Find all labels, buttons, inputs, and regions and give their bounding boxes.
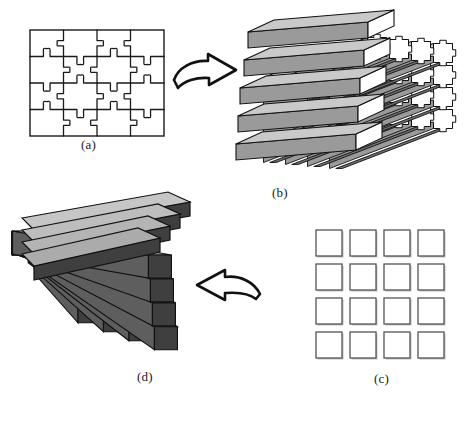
arrow-a-to-b	[172, 52, 240, 98]
panel-b-caption: (b)	[272, 185, 288, 201]
square-tile	[418, 230, 444, 256]
panel-c-caption: (c)	[374, 371, 389, 387]
square-tile	[384, 230, 410, 256]
square-tile	[316, 298, 342, 324]
square-tile	[350, 298, 376, 324]
arrow-right-shape	[174, 54, 236, 88]
square-tile	[384, 298, 410, 324]
square-tile	[316, 332, 342, 358]
panel-a-jigsaw-puzzle-2d	[28, 28, 168, 140]
panel-d-caption: (d)	[137, 369, 153, 385]
panel-d-fanned-bar-array-3d	[12, 184, 192, 416]
square-tile	[384, 332, 410, 358]
arrow-left-shape	[197, 270, 260, 300]
square-tiles	[316, 230, 446, 360]
figure-container: (a) (b) (d) (c)	[0, 0, 471, 431]
square-tile	[418, 298, 444, 324]
square-tile	[350, 332, 376, 358]
extruded-jigsaw-block-svg	[248, 14, 470, 186]
square-tile	[316, 230, 342, 256]
square-tile	[350, 230, 376, 256]
arrow-c-to-d	[194, 258, 262, 304]
square-tile	[384, 264, 410, 290]
arrow-right-curved-icon	[172, 52, 240, 98]
square-tile	[418, 264, 444, 290]
panel-c-separated-square-grid	[314, 228, 454, 368]
square-tile	[350, 264, 376, 290]
panel-a-caption: (a)	[81, 137, 96, 153]
fanned-bar-array-svg	[12, 184, 192, 416]
block-prisms	[236, 10, 456, 169]
square-tile	[418, 332, 444, 358]
square-tile	[316, 264, 342, 290]
fan-bars	[12, 192, 190, 350]
square-grid-svg	[314, 228, 454, 368]
arrow-left-curved-icon	[194, 258, 262, 304]
panel-b-extruded-jigsaw-block-3d	[248, 14, 470, 186]
jigsaw-puzzle-svg	[28, 28, 168, 140]
